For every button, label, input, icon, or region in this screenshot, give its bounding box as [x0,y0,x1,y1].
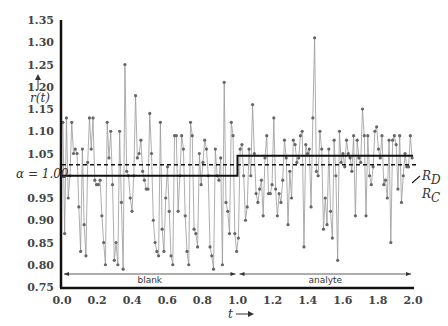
data-point [153,241,156,244]
data-point [400,201,403,204]
rc-annotation: R C [421,187,440,205]
data-point [67,196,70,199]
data-point [159,121,162,124]
data-point [162,250,165,253]
data-point [107,156,110,159]
data-series [61,36,413,271]
data-point [180,134,183,137]
data-point [279,201,282,204]
data-point [308,147,311,150]
region-label: blank [137,275,162,285]
data-point [116,263,119,266]
data-point [100,214,103,217]
data-point [260,179,263,182]
data-point [210,254,213,257]
data-point [375,125,378,128]
data-point [311,116,314,119]
data-point [99,179,102,182]
data-point [63,232,66,235]
data-point [129,196,132,199]
data-point [313,36,316,39]
data-point [350,170,353,173]
data-point [409,134,412,137]
data-point [198,152,201,155]
rd-line [62,156,413,176]
data-point [152,219,155,222]
data-point [256,201,259,204]
data-point [306,152,309,155]
data-point [239,147,242,150]
data-point [169,254,172,257]
y-tick-label: 0.90 [27,214,54,227]
data-point [184,214,187,217]
data-point [240,143,243,146]
data-point [283,139,286,142]
data-point [189,121,192,124]
data-point [230,121,233,124]
data-point [200,183,203,186]
data-point [329,210,332,213]
data-point [361,107,364,110]
y-tick-label: 0.95 [27,192,54,205]
data-point [139,139,142,142]
data-point [192,228,195,231]
data-point [171,263,174,266]
data-point [74,147,77,150]
data-point [224,201,227,204]
data-point [333,139,336,142]
data-point [219,156,222,159]
data-point [164,196,167,199]
data-point [221,263,224,266]
data-point [352,134,355,137]
data-point [93,179,96,182]
data-point [251,103,254,106]
data-point [150,152,153,155]
data-point [317,174,320,177]
data-point [373,130,376,133]
x-tick-label: 1.4 [298,294,317,307]
data-point [191,134,194,137]
data-point [70,121,73,124]
data-point [263,156,266,159]
y-label-text: r(t) [30,91,50,105]
data-point [320,147,323,150]
data-point [274,188,277,191]
data-point [141,170,144,173]
data-point [91,116,94,119]
svg-text:D: D [430,173,441,187]
x-tick-label: 1.6 [333,294,352,307]
data-point [372,165,375,168]
data-point [278,192,281,195]
data-point [403,152,406,155]
data-point [395,143,398,146]
data-point [72,152,75,155]
data-point [338,130,341,133]
data-point [88,116,91,119]
data-point [363,134,366,137]
data-point [65,116,68,119]
data-point [134,94,137,97]
x-tick-label: 0.2 [88,294,107,307]
data-point [331,236,334,239]
data-point [136,156,139,159]
data-point [294,143,297,146]
x-tick-label: 1.2 [263,294,282,307]
data-point [166,165,169,168]
data-point [299,134,302,137]
data-point [402,174,405,177]
data-point [354,214,357,217]
data-point [288,170,291,173]
data-point [194,232,197,235]
data-point [246,205,249,208]
y-tick-label: 1.30 [27,36,54,49]
data-point [364,214,367,217]
data-point [196,245,199,248]
data-point [340,161,343,164]
data-point [233,232,236,235]
data-point [223,81,226,84]
data-point [302,245,305,248]
data-point [285,156,288,159]
data-point [118,130,121,133]
y-tick-label: 1.25 [27,59,54,72]
data-point [272,116,275,119]
